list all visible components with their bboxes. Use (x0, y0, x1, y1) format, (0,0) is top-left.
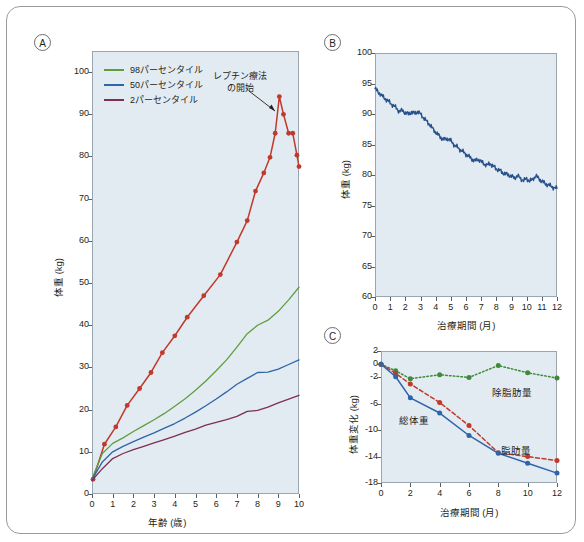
y-tick-label: 0 (338, 358, 378, 368)
y-tick-label: 95 (332, 78, 372, 88)
panel-b-curve (375, 53, 557, 297)
x-tick-mark (299, 494, 300, 498)
x-tick-mark (557, 483, 558, 487)
x-tick-mark (527, 297, 528, 301)
y-tick-mark (88, 114, 92, 115)
x-tick-mark (278, 494, 279, 498)
x-tick-mark (466, 297, 467, 301)
x-tick-mark (216, 494, 217, 498)
y-tick-mark (371, 114, 375, 115)
x-tick-mark (375, 297, 376, 301)
y-tick-mark (88, 367, 92, 368)
y-tick-label: 40 (49, 319, 89, 329)
panel-a-y-axis-title: 体重 (kg) (51, 258, 65, 297)
y-tick-label: 10 (49, 446, 89, 456)
x-tick-mark (405, 297, 406, 301)
x-tick-mark (113, 494, 114, 498)
figure-frame: A 0102030405060708090100 012345678910 体重… (6, 6, 576, 534)
y-tick-label: 100 (332, 47, 372, 57)
legend-item-1: 50パーセンタイル (104, 78, 203, 91)
x-tick-label: 8 (483, 488, 513, 498)
legend-swatch-icon (104, 84, 124, 86)
x-tick-mark (421, 297, 422, 301)
x-tick-label: 4 (425, 488, 455, 498)
y-tick-mark (88, 283, 92, 284)
x-tick-mark (498, 483, 499, 487)
y-tick-mark (88, 410, 92, 411)
x-tick-mark (481, 297, 482, 301)
annotation-line-1: レプチン療法 (213, 71, 267, 81)
x-tick-label: 2 (395, 488, 425, 498)
y-tick-mark (371, 206, 375, 207)
panel-c-x-axis-title: 治療期間 (月) (440, 505, 499, 519)
y-tick-mark (371, 84, 375, 85)
y-tick-label: 100 (49, 66, 89, 76)
y-tick-mark (371, 236, 375, 237)
x-tick-mark (557, 297, 558, 301)
panel-c-label-fat: 脂肪量 (501, 443, 531, 457)
panel-c-label-lean: 除脂肪量 (492, 385, 532, 399)
y-tick-mark (377, 351, 381, 352)
panel-letter-a: A (34, 34, 51, 51)
y-tick-mark (88, 452, 92, 453)
y-tick-label: -18 (338, 477, 378, 487)
y-tick-mark (88, 241, 92, 242)
panel-b-plot (375, 53, 557, 297)
x-tick-mark (451, 297, 452, 301)
legend-item-2: 2パーセンタイル (104, 93, 198, 106)
x-tick-mark (496, 297, 497, 301)
y-tick-label: 90 (332, 108, 372, 118)
y-tick-mark (377, 377, 381, 378)
x-tick-mark (390, 297, 391, 301)
y-tick-label: 2 (338, 345, 378, 355)
y-tick-mark (88, 199, 92, 200)
x-tick-mark (440, 483, 441, 487)
x-tick-label: 12 (542, 488, 572, 498)
legend-swatch-icon (104, 99, 124, 101)
x-tick-mark (133, 494, 134, 498)
x-tick-label: 10 (513, 488, 543, 498)
x-tick-mark (196, 494, 197, 498)
y-tick-mark (371, 175, 375, 176)
x-tick-mark (436, 297, 437, 301)
panel-c-y-axis-title: 体重変化 (kg) (346, 395, 360, 454)
x-tick-label: 12 (542, 302, 572, 312)
x-tick-label: 10 (284, 499, 314, 509)
y-tick-label: -2 (338, 371, 378, 381)
annotation-arrow-icon (247, 89, 287, 119)
y-tick-mark (371, 53, 375, 54)
y-tick-label: 60 (49, 235, 89, 245)
x-tick-mark (469, 483, 470, 487)
panel-b-x-axis-title: 治療期間 (月) (437, 318, 496, 332)
x-tick-mark (92, 494, 93, 498)
panel-letter-c: C (324, 327, 341, 344)
legend-label: 98パーセンタイル (130, 63, 203, 76)
legend-item-0: 98パーセンタイル (104, 63, 203, 76)
x-tick-mark (528, 483, 529, 487)
y-tick-mark (88, 325, 92, 326)
x-tick-mark (512, 297, 513, 301)
y-tick-mark (377, 430, 381, 431)
y-tick-label: 70 (49, 193, 89, 203)
legend-label: 2パーセンタイル (130, 93, 198, 106)
x-tick-mark (175, 494, 176, 498)
x-tick-mark (381, 483, 382, 487)
x-tick-label: 6 (454, 488, 484, 498)
y-tick-label: 90 (49, 108, 89, 118)
y-tick-mark (371, 145, 375, 146)
panel-c-label-total: 総体重 (399, 413, 429, 427)
y-tick-label: 85 (332, 139, 372, 149)
legend-swatch-icon (104, 69, 124, 71)
y-tick-label: 80 (49, 150, 89, 160)
panel-b-y-axis-title: 体重 (kg) (338, 160, 352, 199)
y-tick-label: 60 (332, 291, 372, 301)
y-tick-mark (88, 156, 92, 157)
y-tick-mark (371, 267, 375, 268)
x-tick-mark (258, 494, 259, 498)
x-tick-mark (542, 297, 543, 301)
y-tick-mark (377, 457, 381, 458)
y-tick-label: 0 (49, 488, 89, 498)
y-tick-mark (377, 364, 381, 365)
x-tick-label: 0 (366, 488, 396, 498)
x-tick-mark (410, 483, 411, 487)
